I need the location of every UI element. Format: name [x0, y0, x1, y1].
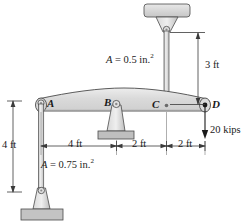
dim-3ft-arrow-top	[196, 32, 201, 39]
label-area-top-rod: A = 0.5 in.2	[106, 53, 154, 65]
label-area-left-rod: A = 0.75 in.2	[41, 158, 94, 170]
label-point-B: B	[104, 97, 111, 108]
beam-body	[38, 88, 207, 111]
engineering-diagram: A B C D A = 0.5 in.2 A = 0.75 in.2 4 ft …	[0, 0, 250, 224]
area-left-eq: = 0.75 in.	[47, 159, 90, 170]
label-dim-span-ab: 4 ft	[68, 139, 82, 150]
pin-ceiling-center	[165, 28, 167, 30]
ground-base-block	[21, 209, 63, 220]
rigid-beam	[36, 88, 211, 112]
area-left-exp: 2	[90, 157, 94, 165]
label-dim-vertical-4ft: 4 ft	[2, 140, 16, 151]
label-load-20kips: 20 kips	[210, 125, 241, 136]
label-point-A: A	[47, 98, 54, 109]
point-C-marker	[165, 104, 169, 108]
area-top-exp: 2	[150, 52, 154, 60]
label-dim-vertical-3ft: 3 ft	[205, 60, 219, 71]
diagram-canvas	[0, 0, 250, 224]
pin-B-center	[115, 103, 117, 105]
label-dim-span-cd: 2 ft	[178, 139, 192, 150]
load-arrow-head	[202, 130, 208, 139]
pin-ground-center	[40, 189, 42, 191]
label-dim-span-bc: 2 ft	[132, 139, 146, 150]
area-top-eq: = 0.5 in.	[112, 54, 150, 65]
support-B-base	[98, 131, 134, 139]
label-point-C: C	[152, 99, 159, 110]
ground-support-bottom	[21, 187, 63, 220]
ceiling-support	[144, 4, 190, 33]
ceiling-plate	[144, 4, 190, 17]
label-point-D: D	[212, 99, 220, 110]
